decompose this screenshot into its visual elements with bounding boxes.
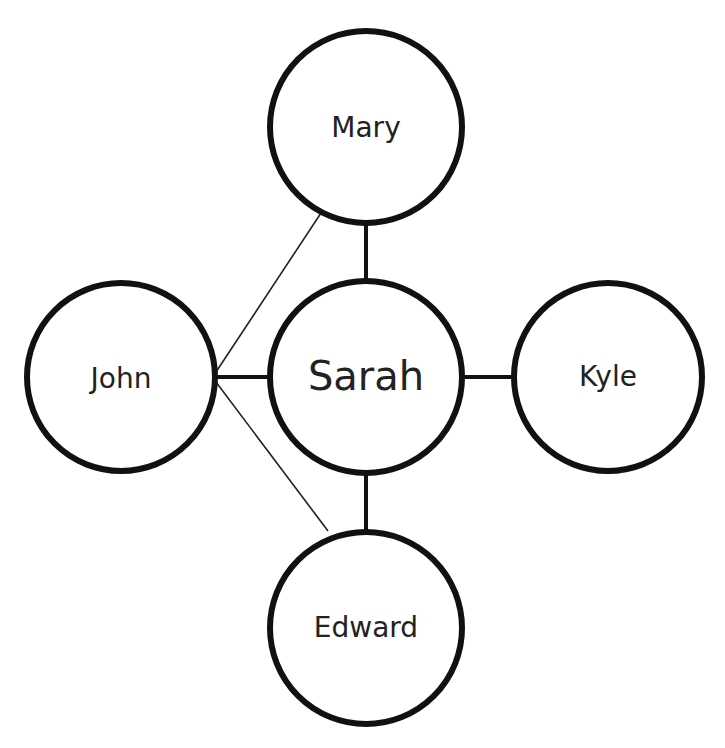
node-sarah[interactable]: Sarah xyxy=(270,281,462,473)
node-kyle[interactable]: Kyle xyxy=(514,283,702,471)
node-edward[interactable]: Edward xyxy=(270,532,462,724)
node-sarah-label: Sarah xyxy=(308,353,424,399)
node-mary-label: Mary xyxy=(331,111,400,144)
node-john[interactable]: John xyxy=(27,283,215,471)
node-john-label: John xyxy=(89,362,152,395)
network-diagram: Mary John Sarah Kyle Edward xyxy=(0,0,725,748)
node-kyle-label: Kyle xyxy=(579,360,637,393)
node-edward-label: Edward xyxy=(314,611,418,644)
node-mary[interactable]: Mary xyxy=(270,31,462,223)
